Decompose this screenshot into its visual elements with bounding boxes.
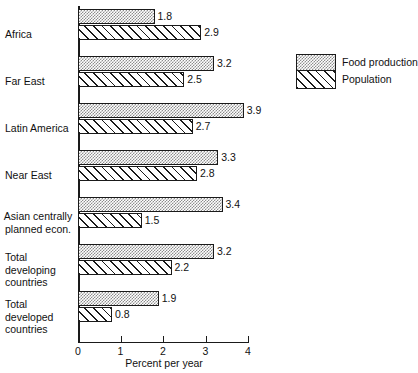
- category-label-total-developed-countries: Total developed countries: [5, 298, 75, 336]
- bar-population-asian-centrally-planned-econ: [78, 213, 142, 228]
- legend-label-food-production: Food production: [342, 55, 418, 69]
- legend-item-food-production: Food production: [296, 54, 412, 71]
- bar-food-production-far-east: [78, 56, 214, 71]
- value-label-population-far-east: 2.5: [184, 72, 202, 87]
- x-tick-label-1: 1: [111, 345, 131, 357]
- category-label-africa: Africa: [5, 28, 75, 41]
- value-label-food-production-asian-centrally-planned-econ: 3.4: [223, 197, 241, 212]
- bar-food-production-africa: [78, 9, 155, 24]
- x-tick-label-0: 0: [68, 345, 88, 357]
- x-tick-2: [163, 336, 164, 342]
- category-label-asian-centrally-planned-econ: Asian centrally planned econ.: [2, 210, 74, 235]
- bar-population-total-developing-countries: [78, 260, 172, 275]
- bar-food-production-total-developed-countries: [78, 291, 159, 306]
- bar-population-near-east: [78, 166, 197, 181]
- legend-item-population: Population: [296, 71, 412, 88]
- x-tick-3: [206, 336, 207, 342]
- x-tick-label-4: 4: [238, 345, 258, 357]
- x-tick-label-2: 2: [153, 345, 173, 357]
- x-tick-label-3: 3: [196, 345, 216, 357]
- value-label-food-production-near-east: 3.3: [218, 150, 236, 165]
- x-tick-4: [248, 336, 249, 342]
- value-label-food-production-total-developed-countries: 1.9: [159, 291, 177, 306]
- x-axis-title: Percent per year: [78, 357, 250, 369]
- x-tick-0: [78, 336, 79, 342]
- value-label-population-near-east: 2.8: [197, 166, 215, 181]
- value-label-population-total-developing-countries: 2.2: [172, 260, 190, 275]
- bar-food-production-total-developing-countries: [78, 244, 214, 259]
- value-label-food-production-latin-america: 3.9: [244, 103, 262, 118]
- bar-population-latin-america: [78, 119, 193, 134]
- legend-swatch-food-production: [296, 54, 336, 71]
- value-label-food-production-africa: 1.8: [155, 9, 173, 24]
- legend-swatch-population: [296, 71, 336, 89]
- value-label-population-africa: 2.9: [201, 25, 219, 40]
- bar-food-production-asian-centrally-planned-econ: [78, 197, 223, 212]
- category-label-far-east: Far East: [5, 75, 75, 88]
- bar-population-total-developed-countries: [78, 307, 112, 322]
- x-tick-1: [121, 336, 122, 342]
- value-label-food-production-far-east: 3.2: [214, 56, 232, 71]
- value-label-food-production-total-developing-countries: 3.2: [214, 244, 232, 259]
- value-label-population-total-developed-countries: 0.8: [112, 307, 130, 322]
- bar-population-africa: [78, 25, 201, 40]
- legend-label-population: Population: [342, 72, 392, 86]
- plot-area: 0 1 2 3 4 1.8 2.9 3.2 2.5 3.9 2.7 3.3 2.…: [78, 0, 253, 345]
- bar-population-far-east: [78, 72, 184, 87]
- bar-food-production-latin-america: [78, 103, 244, 118]
- legend: Food production Population: [296, 54, 412, 88]
- category-label-near-east: Near East: [5, 169, 75, 182]
- value-label-population-latin-america: 2.7: [193, 119, 211, 134]
- category-label-total-developing-countries: Total developing countries: [5, 251, 75, 289]
- bar-food-production-near-east: [78, 150, 218, 165]
- value-label-population-asian-centrally-planned-econ: 1.5: [142, 213, 160, 228]
- category-label-latin-america: Latin America: [5, 122, 75, 135]
